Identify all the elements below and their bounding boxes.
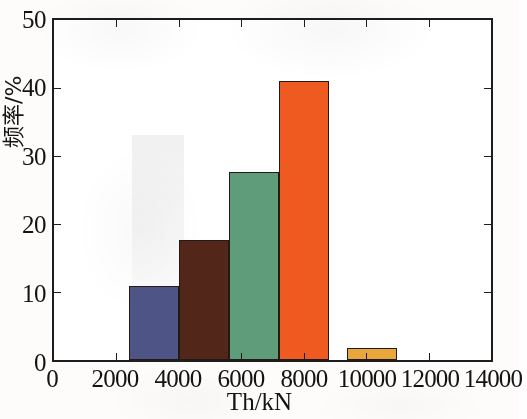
- y-tick-label-20: 20: [14, 212, 46, 237]
- y-tick-label-10: 10: [14, 281, 46, 306]
- y-tick-label-50: 50: [14, 7, 46, 32]
- bar-4: [279, 81, 329, 360]
- x-tick-4000: [179, 353, 180, 360]
- bar-1: [129, 286, 179, 360]
- x-tick-6000: [241, 353, 242, 360]
- x-tick-top-6000: [241, 20, 242, 27]
- y-tick-10: [54, 292, 61, 293]
- y-tick-right-10: [484, 292, 491, 293]
- y-tick-right-40: [484, 88, 491, 89]
- x-tick-top-2000: [116, 20, 117, 27]
- x-axis-title: Th/kN: [0, 388, 519, 415]
- plot-area: [52, 18, 493, 362]
- x-tick-10000: [366, 353, 367, 360]
- bar-2: [179, 240, 229, 360]
- y-tick-30: [54, 156, 61, 157]
- y-tick-label-40: 40: [14, 75, 46, 100]
- x-tick-top-4000: [179, 20, 180, 27]
- y-tick-right-20: [484, 224, 491, 225]
- x-tick-top-10000: [366, 20, 367, 27]
- y-tick-label-30: 30: [14, 144, 46, 169]
- y-tick-40: [54, 88, 61, 89]
- x-tick-top-8000: [304, 20, 305, 27]
- x-tick-top-12000: [429, 20, 430, 27]
- y-tick-20: [54, 224, 61, 225]
- y-tick-right-30: [484, 156, 491, 157]
- bar-3: [229, 172, 279, 360]
- x-tick-8000: [304, 353, 305, 360]
- bar-5: [347, 348, 397, 360]
- x-tick-12000: [429, 353, 430, 360]
- x-tick-2000: [116, 353, 117, 360]
